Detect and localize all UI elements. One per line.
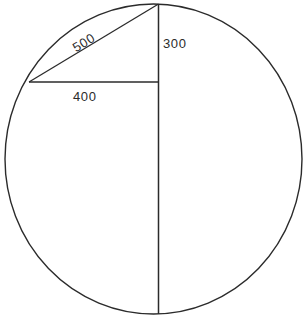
horizontal-leg-label: 400 bbox=[73, 90, 97, 103]
geometry-canvas bbox=[0, 0, 305, 326]
circle-geometry-diagram: 300 400 500 bbox=[0, 0, 305, 326]
vertical-leg-label: 300 bbox=[163, 37, 187, 50]
circle-outline bbox=[5, 4, 302, 314]
